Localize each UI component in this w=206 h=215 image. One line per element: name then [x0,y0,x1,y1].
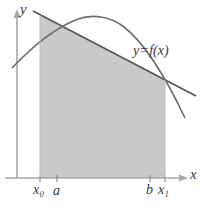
function-annotation-fx: f(x) [149,43,168,58]
tick-label-x0: x0 [33,183,44,197]
figure-container: y x x0 a b x1 y=f(x) [0,0,206,215]
tick-label-x0-subscript: 0 [40,189,44,199]
x-axis-label: x [190,167,197,182]
figure-graphic [0,0,206,215]
tick-label-x1-base: x [158,182,164,197]
tick-label-b: b [146,183,153,197]
x-axis-arrow-icon [179,175,188,182]
tick-label-a: a [53,184,60,198]
y-axis-label: y [20,2,27,17]
tick-label-x0-base: x [33,182,39,197]
shaded-area-region [40,15,165,178]
tick-label-x1: x1 [158,183,169,197]
function-annotation: y=f(x) [133,44,169,58]
tick-label-x1-subscript: 1 [165,189,169,199]
function-annotation-equals: = [139,43,149,58]
